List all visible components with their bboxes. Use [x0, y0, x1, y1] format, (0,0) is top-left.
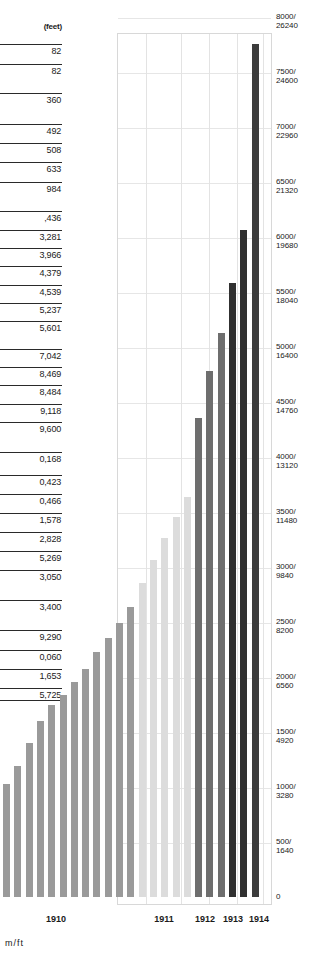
tick-meters: 4000/: [276, 452, 309, 461]
tick-feet: 14760: [276, 406, 309, 415]
bar-series: [0, 33, 272, 897]
tick-meters: 2500/: [276, 617, 309, 626]
x-axis-year-label: 1912: [191, 914, 219, 924]
right-axis-tick: 6000/19680: [276, 232, 309, 250]
bar: [3, 784, 10, 897]
tick-feet: 9840: [276, 571, 309, 580]
tick-meters: 3000/: [276, 562, 309, 571]
bar-chart: (feet) 8282360492508633984,4363,2813,966…: [0, 0, 309, 965]
bar: [195, 418, 202, 897]
bar: [229, 283, 236, 897]
bar: [48, 705, 55, 897]
right-axis-tick: 8000/26240: [276, 12, 309, 30]
bar: [60, 695, 67, 897]
tick-meters: 4500/: [276, 397, 309, 406]
right-axis-tick: 4500/14760: [276, 397, 309, 415]
left-column-header: (feet): [0, 22, 62, 31]
tick-feet: 19680: [276, 241, 309, 250]
x-axis: 19101911191219131914: [0, 906, 309, 936]
bar: [37, 721, 44, 897]
right-axis-tick: 5500/18040: [276, 287, 309, 305]
tick-feet: 4920: [276, 736, 309, 745]
tick-feet: 22960: [276, 131, 309, 140]
bar: [150, 560, 157, 897]
tick-feet: 6560: [276, 681, 309, 690]
tick-meters: 7500/: [276, 67, 309, 76]
right-axis-tick: 7000/22960: [276, 122, 309, 140]
bar: [173, 517, 180, 897]
bar: [71, 682, 78, 897]
x-axis-year-label: 1910: [42, 914, 70, 924]
tick-feet: 21320: [276, 186, 309, 195]
bar: [93, 652, 100, 897]
right-axis: 8000/262407500/246007000/229606500/21320…: [274, 0, 309, 965]
bar: [161, 538, 168, 897]
tick-meters: 3500/: [276, 507, 309, 516]
bar: [105, 638, 112, 897]
tick-feet: 16400: [276, 351, 309, 360]
bar: [184, 497, 191, 897]
tick-feet: 18040: [276, 296, 309, 305]
right-axis-tick: 1500/4920: [276, 727, 309, 745]
bar: [139, 583, 146, 897]
bar: [14, 766, 21, 897]
x-axis-year-label: 1913: [219, 914, 247, 924]
tick-meters: 6500/: [276, 177, 309, 186]
bar: [218, 333, 225, 897]
tick-meters: 500/: [276, 837, 309, 846]
right-axis-tick: 2000/6560: [276, 672, 309, 690]
right-axis-tick: 5000/16400: [276, 342, 309, 360]
tick-meters: 2000/: [276, 672, 309, 681]
right-axis-unit-label: m/ft: [5, 938, 24, 948]
tick-meters: 7000/: [276, 122, 309, 131]
tick-feet: 13120: [276, 461, 309, 470]
right-axis-tick: 0: [276, 892, 309, 901]
bar: [127, 607, 134, 897]
tick-meters: 8000/: [276, 12, 309, 21]
tick-meters: 5500/: [276, 287, 309, 296]
tick-meters: 0: [276, 892, 309, 901]
tick-meters: 6000/: [276, 232, 309, 241]
right-axis-tick: 6500/21320: [276, 177, 309, 195]
bar: [206, 371, 213, 897]
tick-meters: 1500/: [276, 727, 309, 736]
right-axis-tick: 7500/24600: [276, 67, 309, 85]
tick-feet: 24600: [276, 76, 309, 85]
gridline-horizontal: [118, 18, 271, 19]
right-axis-tick: 3500/11480: [276, 507, 309, 525]
tick-feet: 11480: [276, 516, 309, 525]
tick-feet: 8200: [276, 626, 309, 635]
bar: [240, 230, 247, 897]
bar: [116, 623, 123, 897]
bar: [26, 743, 33, 897]
x-axis-year-label: 1911: [150, 914, 178, 924]
right-axis-tick: 500/1640: [276, 837, 309, 855]
right-axis-tick: 2500/8200: [276, 617, 309, 635]
x-axis-year-label: 1914: [245, 914, 273, 924]
tick-feet: 1640: [276, 846, 309, 855]
tick-feet: 26240: [276, 21, 309, 30]
tick-feet: 3280: [276, 791, 309, 800]
right-axis-tick: 3000/9840: [276, 562, 309, 580]
right-axis-tick: 1000/3280: [276, 782, 309, 800]
tick-meters: 1000/: [276, 782, 309, 791]
tick-meters: 5000/: [276, 342, 309, 351]
bar: [82, 669, 89, 897]
bar: [252, 44, 259, 897]
right-axis-tick: 4000/13120: [276, 452, 309, 470]
